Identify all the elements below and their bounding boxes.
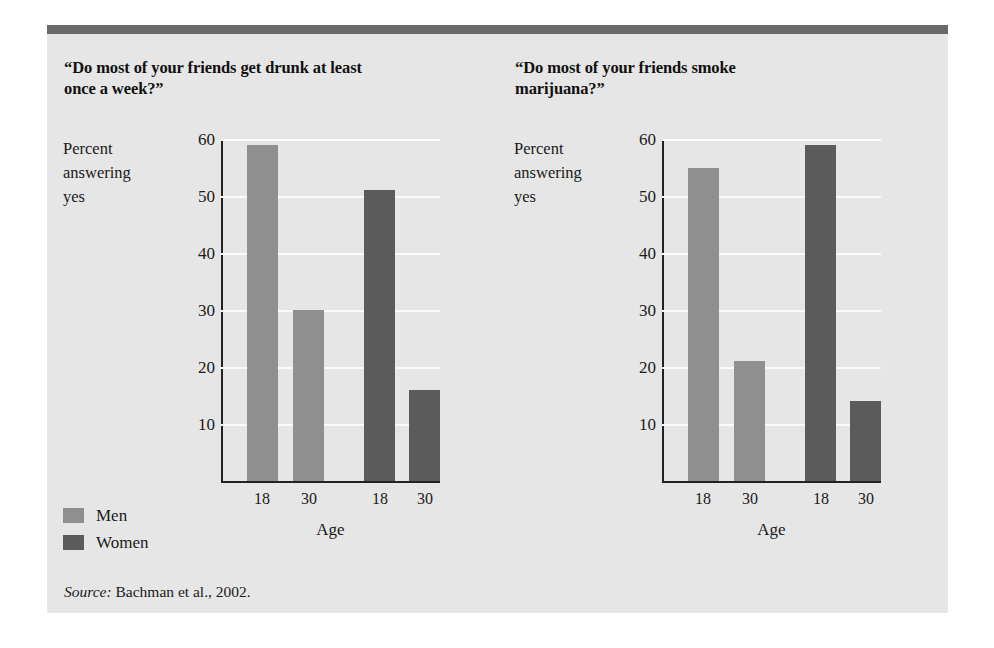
source-keyword: Source: [64, 583, 112, 600]
bar-men-30 [734, 361, 765, 481]
y-axis-label: Percent answering yes [63, 137, 183, 209]
x-tick-label: 30 [742, 491, 758, 507]
x-tick-label: 18 [372, 491, 388, 507]
x-axis-title: Age [662, 520, 881, 540]
gridline-60: 60 [662, 139, 881, 141]
legend-label-men: Men [96, 506, 127, 526]
chart-title: “Do most of your friends get drunk at le… [64, 57, 384, 99]
chart-panel-marijuana: “Do most of your friends smoke marijuana… [498, 34, 948, 613]
source-note: Source: Bachman et al., 2002. [64, 583, 251, 601]
x-tick-label: 30 [301, 491, 317, 507]
y-tick-label: 30 [639, 302, 656, 319]
x-tick-label: 30 [417, 491, 433, 507]
chart-title: “Do most of your friends smoke marijuana… [515, 57, 815, 99]
bar-women-18 [364, 190, 395, 481]
chart-panel-drunk: “Do most of your friends get drunk at le… [47, 34, 497, 613]
bar-men-18 [688, 168, 719, 482]
y-tick-label: 20 [198, 359, 215, 376]
legend-item-men: Men [63, 502, 148, 529]
y-tick-label: 50 [639, 188, 656, 205]
x-axis-line [221, 481, 440, 483]
plot-area: 60 50 40 30 20 10 18 30 [221, 139, 440, 481]
bar-men-30 [293, 310, 324, 481]
y-axis-label: Percent answering yes [514, 137, 634, 209]
legend-label-women: Women [96, 533, 148, 553]
legend: Men Women [63, 502, 148, 556]
y-tick-label: 10 [198, 416, 215, 433]
x-tick-label: 30 [858, 491, 874, 507]
y-tick-label: 40 [639, 245, 656, 262]
y-tick-label: 20 [639, 359, 656, 376]
y-tick-label: 40 [198, 245, 215, 262]
x-tick-label: 18 [813, 491, 829, 507]
legend-item-women: Women [63, 529, 148, 556]
source-text: Bachman et al., 2002. [112, 583, 251, 600]
legend-swatch-women [63, 535, 84, 550]
x-tick-label: 18 [695, 491, 711, 507]
legend-swatch-men [63, 508, 84, 523]
y-tick-label: 60 [198, 131, 215, 148]
gridline-60: 60 [221, 139, 440, 141]
bar-men-18 [247, 145, 278, 481]
x-tick-label: 18 [254, 491, 270, 507]
y-tick-label: 10 [639, 416, 656, 433]
x-axis-line [662, 481, 881, 483]
bar-women-18 [805, 145, 836, 481]
figure-panel: “Do most of your friends get drunk at le… [47, 25, 948, 613]
figure-top-rule [47, 25, 948, 34]
y-tick-label: 60 [639, 131, 656, 148]
bar-women-30 [409, 390, 440, 481]
y-tick-label: 50 [198, 188, 215, 205]
x-axis-title: Age [221, 520, 440, 540]
y-tick-label: 30 [198, 302, 215, 319]
plot-area: 60 50 40 30 20 10 18 30 18 30 [662, 139, 881, 481]
bar-women-30 [850, 401, 881, 481]
